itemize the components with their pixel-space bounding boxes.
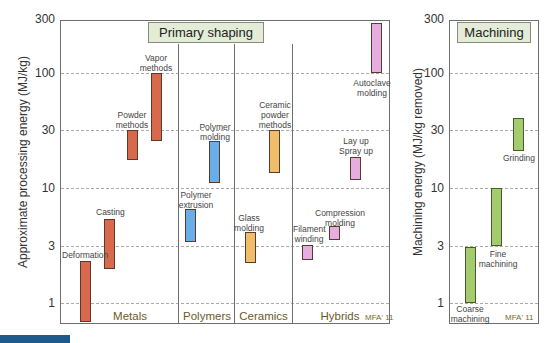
gridline-100-right <box>450 73 538 74</box>
label-ceramic-powder-methods: Ceramicpowdermethods <box>257 100 293 130</box>
tick-3: 3 <box>25 239 55 253</box>
tick-10: 10 <box>25 181 55 195</box>
bar-glass-molding <box>245 232 256 263</box>
label-polymer-extrusion: Polymerextrusion <box>178 190 214 210</box>
label-powder-methods: Powdermethods <box>114 110 150 130</box>
label-fine-machining: Finemachining <box>478 249 518 269</box>
bar-lay-up-spray-up <box>350 157 361 180</box>
bar-ceramic-powder-methods <box>269 130 280 173</box>
tick-100-right: 100 <box>414 66 444 80</box>
label-vapor-methods: Vapormethods <box>138 53 174 73</box>
credit-left: MFA' 11 <box>365 313 394 322</box>
gridline-3-right <box>450 246 538 247</box>
bar-autoclave-molding <box>371 23 382 73</box>
label-compression-molding: Compressionmolding <box>315 208 365 228</box>
bar-grinding <box>513 118 524 151</box>
category-metals: Metals <box>100 310 160 322</box>
tick-300-right: 300 <box>414 12 444 26</box>
gridline-100 <box>61 73 389 74</box>
divider-polymers-ceramics <box>234 44 235 324</box>
label-autoclave-molding: Autoclavemolding <box>352 78 392 98</box>
bar-fine-machining <box>491 188 502 246</box>
label-lay-up-spray-up: Lay upSpray up <box>336 136 376 156</box>
y-axis-label-right: Machining energy (MJ/kg removed) <box>411 62 425 262</box>
tick-1: 1 <box>25 296 55 310</box>
category-ceramics: Ceramics <box>235 310 292 322</box>
label-coarse-machining: Coarsemachining <box>450 304 490 324</box>
tick-30-right: 30 <box>414 123 444 137</box>
category-hybrids: Hybrids <box>320 310 360 322</box>
gridline-30-right <box>450 130 538 131</box>
label-deformation: Deformation <box>62 250 108 260</box>
tick-1-right: 1 <box>414 296 444 310</box>
bar-powder-methods <box>127 130 138 160</box>
divider-metals-polymers <box>178 44 179 324</box>
category-polymers: Polymers <box>180 310 234 322</box>
tick-30: 30 <box>25 123 55 137</box>
tick-10-right: 10 <box>414 181 444 195</box>
tick-3-right: 3 <box>414 239 444 253</box>
divider-ceramics-hybrids <box>292 44 293 324</box>
plot-area-right <box>449 20 539 324</box>
tick-300: 300 <box>25 12 55 26</box>
bar-vapor-methods <box>151 73 162 141</box>
bar-casting <box>104 219 115 269</box>
bar-polymer-extrusion <box>185 209 196 242</box>
bar-filament-winding <box>302 245 313 260</box>
credit-right: MFA' 11 <box>505 313 534 322</box>
bar-deformation <box>80 261 91 322</box>
footer-accent-bar <box>0 335 70 343</box>
label-polymer-molding: Polymermolding <box>196 122 234 142</box>
primary-shaping-title: Primary shaping <box>148 22 264 43</box>
machining-title: Machining <box>457 22 531 43</box>
tick-100: 100 <box>25 66 55 80</box>
gridline-10 <box>61 188 389 189</box>
bar-polymer-molding <box>209 141 220 183</box>
bar-compression-molding <box>329 226 340 240</box>
gridline-1 <box>61 303 389 304</box>
label-grinding: Grinding <box>501 153 537 163</box>
plot-area-left <box>60 20 390 324</box>
bar-coarse-machining <box>465 247 476 303</box>
label-casting: Casting <box>96 207 125 217</box>
label-glass-molding: Glassmolding <box>234 213 264 233</box>
